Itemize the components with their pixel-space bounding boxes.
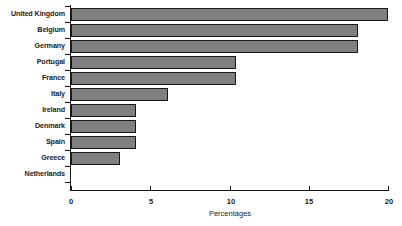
bar-chart: United Kingdom Belgium Germany Portugal … [0, 0, 402, 226]
bar-denmark [71, 120, 136, 133]
y-axis-line [70, 5, 71, 190]
bar-united-kingdom [71, 8, 388, 21]
y-tick [65, 38, 70, 39]
y-tick [65, 70, 70, 71]
x-tick-15 [309, 186, 310, 190]
bar-greece [71, 152, 120, 165]
y-tick [65, 182, 70, 183]
y-axis-label-germany: Germany [0, 42, 65, 50]
y-axis-label-greece: Greece [0, 154, 65, 162]
x-axis-title: Percentages [170, 209, 290, 218]
y-tick [65, 86, 70, 87]
bar-spain [71, 136, 136, 149]
bar-germany [71, 40, 358, 53]
y-axis-label-ireland: Ireland [0, 106, 65, 114]
x-tick-label-15: 15 [297, 197, 321, 206]
x-tick-label-20: 20 [377, 197, 401, 206]
y-tick [65, 102, 70, 103]
x-tick-10 [230, 186, 231, 190]
y-tick [65, 54, 70, 55]
y-tick [65, 22, 70, 23]
bar-italy [71, 88, 168, 101]
y-axis-label-denmark: Denmark [0, 122, 65, 130]
y-tick [65, 118, 70, 119]
bar-ireland [71, 104, 136, 117]
y-axis-label-france: France [0, 74, 65, 82]
x-tick-0 [71, 186, 72, 190]
y-axis-label-spain: Spain [0, 138, 65, 146]
x-tick-label-0: 0 [59, 197, 83, 206]
x-tick-label-10: 10 [219, 197, 243, 206]
x-tick-20 [388, 186, 389, 190]
y-axis-label-belgium: Belgium [0, 26, 65, 34]
bar-belgium [71, 24, 358, 37]
y-tick [65, 150, 70, 151]
y-tick [65, 6, 70, 7]
y-tick [65, 134, 70, 135]
y-tick [65, 166, 70, 167]
x-tick-5 [150, 186, 151, 190]
plot-area: United Kingdom Belgium Germany Portugal … [0, 0, 402, 226]
x-tick-label-5: 5 [139, 197, 163, 206]
y-axis-label-italy: Italy [0, 90, 65, 98]
x-axis-line [70, 190, 389, 191]
y-axis-label-netherlands: Netherlands [0, 170, 65, 178]
y-axis-category-labels: United Kingdom Belgium Germany Portugal … [0, 0, 68, 190]
y-axis-label-portugal: Portugal [0, 58, 65, 66]
bar-france [71, 72, 236, 85]
y-axis-label-united-kingdom: United Kingdom [0, 10, 65, 18]
bar-portugal [71, 56, 236, 69]
